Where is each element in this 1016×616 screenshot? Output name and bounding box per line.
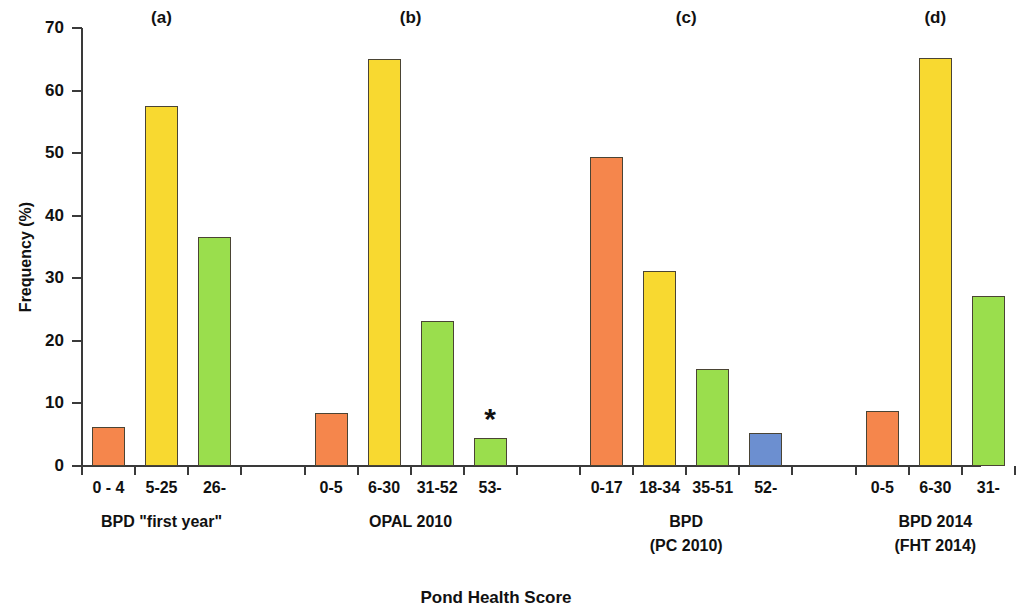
panel-letter: (b) [400, 8, 422, 28]
panel-letter: (a) [151, 8, 172, 28]
x-axis-category-label: 35-51 [692, 479, 733, 497]
y-axis-tick-label: 20 [4, 331, 64, 351]
y-axis-tick-label: 40 [4, 206, 64, 226]
y-axis-tick-label: 60 [4, 81, 64, 101]
x-axis-category-label: 26- [203, 479, 226, 497]
y-axis-tick-label: 0 [4, 456, 64, 476]
bar [368, 59, 401, 466]
x-axis-tick [579, 466, 581, 475]
panel-letter: (d) [924, 8, 946, 28]
y-axis-title: Frequency (%) [17, 157, 35, 357]
y-axis-tick-label: 50 [4, 143, 64, 163]
x-axis-category-label: 0-5 [871, 479, 894, 497]
panel-group-label: BPD [669, 513, 703, 531]
x-axis-category-label: 52- [754, 479, 777, 497]
panel-group-label: (PC 2010) [650, 537, 723, 555]
y-axis-tick-label: 30 [4, 268, 64, 288]
x-axis-category-label: 53- [479, 479, 502, 497]
x-axis-tick [410, 466, 412, 475]
x-axis-tick [685, 466, 687, 475]
x-axis-category-label: 31-52 [417, 479, 458, 497]
y-axis-tick [72, 277, 82, 279]
x-axis-tick [738, 466, 740, 475]
bar [198, 237, 231, 466]
bar [474, 438, 507, 466]
x-axis-category-label: 18-34 [639, 479, 680, 497]
y-axis-tick [72, 27, 82, 29]
x-axis-category-label: 6-30 [919, 479, 951, 497]
x-axis-category-label: 31- [977, 479, 1000, 497]
x-axis-tick [632, 466, 634, 475]
panel-letter: (c) [676, 8, 697, 28]
y-axis-tick [72, 340, 82, 342]
x-axis-tick [961, 466, 963, 475]
x-axis-category-label: 5-25 [145, 479, 177, 497]
y-axis-tick [72, 90, 82, 92]
panel-group-label: BPD "first year" [101, 513, 222, 531]
x-axis-tick [187, 466, 189, 475]
x-axis-category-label: 0-5 [320, 479, 343, 497]
panel-group-label: BPD 2014 [898, 513, 972, 531]
x-axis-tick [791, 466, 793, 475]
y-axis-tick-label: 70 [4, 18, 64, 38]
bar [315, 413, 348, 466]
bar [92, 427, 125, 466]
bar [145, 106, 178, 466]
x-axis-tick [304, 466, 306, 475]
bar [643, 271, 676, 466]
x-axis-tick [516, 466, 518, 475]
bar [421, 321, 454, 466]
x-axis-tick [357, 466, 359, 475]
x-axis-category-label: 0-17 [591, 479, 623, 497]
x-axis-tick [855, 466, 857, 475]
bar [696, 369, 729, 466]
panel-group-label: (FHT 2014) [894, 537, 976, 555]
x-axis-title: Pond Health Score [0, 588, 992, 608]
panel-group-label: OPAL 2010 [369, 513, 452, 531]
y-axis-tick [72, 402, 82, 404]
bar [972, 296, 1005, 466]
y-axis-tick-label: 10 [4, 393, 64, 413]
x-axis-tick [463, 466, 465, 475]
x-axis-tick [240, 466, 242, 475]
x-axis-category-label: 0 - 4 [92, 479, 124, 497]
bar-annotation-asterisk: * [484, 404, 496, 434]
x-axis-tick [134, 466, 136, 475]
x-axis-tick [81, 466, 83, 475]
y-axis-tick [72, 215, 82, 217]
x-axis-category-label: 6-30 [368, 479, 400, 497]
bar [919, 58, 952, 466]
x-axis-tick [1014, 466, 1016, 475]
y-axis-tick [72, 152, 82, 154]
bar [749, 433, 782, 466]
x-axis-tick [908, 466, 910, 475]
bar [590, 157, 623, 466]
bar [866, 411, 899, 466]
